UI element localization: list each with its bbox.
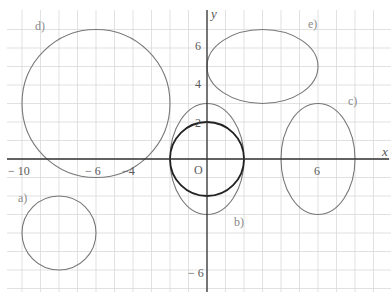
shape-label-a: a)	[18, 192, 27, 204]
shape-label-c: c)	[348, 95, 357, 107]
y-tick-label: 4	[195, 78, 201, 90]
x-tick-label: 6	[314, 165, 320, 177]
x-tick-label: −4	[122, 165, 135, 177]
x-tick-label: − 6	[85, 165, 101, 177]
y-axis-label: y	[211, 7, 217, 20]
y-tick-label: − 6	[188, 267, 204, 279]
shape-label-b: b)	[234, 216, 244, 228]
coordinate-diagram: x y O − 10 − 6 −4 6 6 4 2 − 6 a) b) c) d…	[0, 0, 391, 292]
x-tick-label: − 10	[8, 165, 30, 177]
shape-label-d: d)	[35, 20, 45, 32]
y-tick-label: 2	[195, 117, 201, 129]
x-axis-label: x	[382, 145, 388, 158]
y-tick-label: 6	[195, 40, 201, 52]
origin-label: O	[194, 164, 203, 176]
shape-label-e: e)	[308, 18, 317, 30]
